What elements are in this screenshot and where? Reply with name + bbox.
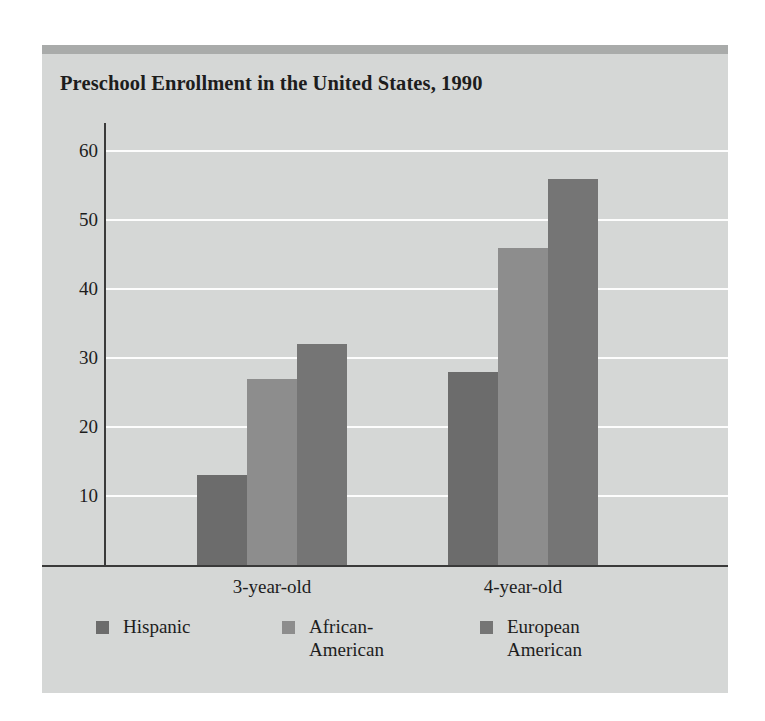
y-axis-tick-label: 40 [54,278,98,300]
y-axis-tick-label: 50 [54,209,98,231]
chart-figure-panel: Preschool Enrollment in the United State… [42,45,728,693]
chart-legend: HispanicAfrican- AmericanEuropean Americ… [96,615,696,685]
bar [197,475,247,565]
y-axis-tick-labels: 102030405060 [50,45,98,693]
panel-top-band [42,45,728,54]
legend-item: European American [480,615,582,661]
y-axis-tick-label: 10 [54,485,98,507]
y-axis-line [104,123,106,567]
y-axis-tick-label: 60 [54,140,98,162]
bar [548,179,598,565]
gridline [106,426,728,428]
gridline [106,219,728,221]
gridline [106,357,728,359]
legend-item: African- American [282,615,384,661]
gridline [106,288,728,290]
legend-item: Hispanic [96,615,191,638]
bar [247,379,297,565]
bar [498,248,548,565]
legend-label: African- American [309,615,384,661]
legend-swatch-icon [96,621,109,634]
legend-label: European American [507,615,582,661]
x-axis-category-label: 3-year-old [182,576,362,598]
x-axis-line [42,565,728,567]
y-axis-tick-label: 20 [54,416,98,438]
chart-title: Preschool Enrollment in the United State… [60,72,482,95]
legend-label: Hispanic [123,615,191,638]
gridline [106,150,728,152]
y-axis-tick-label: 30 [54,347,98,369]
legend-swatch-icon [480,621,493,634]
bar [448,372,498,565]
x-axis-category-label: 4-year-old [433,576,613,598]
legend-swatch-icon [282,621,295,634]
bar [297,344,347,565]
